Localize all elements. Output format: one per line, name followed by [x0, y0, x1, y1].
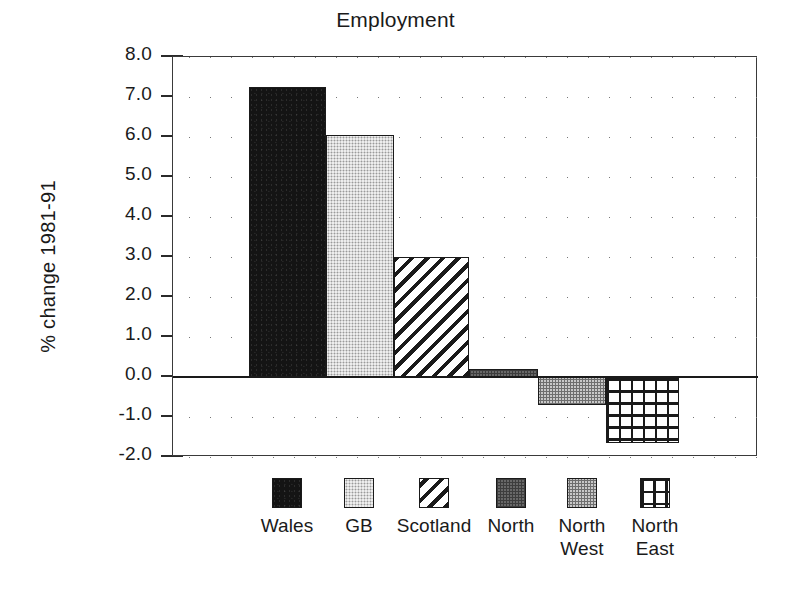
y-axis-tick: [161, 135, 172, 137]
y-axis-tick: [161, 255, 172, 257]
legend-swatch-scotland: [419, 478, 449, 508]
y-axis-tick: [161, 415, 172, 417]
y-axis-tick-label: 0.0: [90, 363, 152, 385]
legend-label: North East: [605, 514, 705, 560]
y-axis-tick-label: 1.0: [90, 323, 152, 345]
y-axis-tick: [161, 375, 172, 378]
y-axis-tick: [161, 215, 172, 217]
y-axis-tick-label: 3.0: [90, 243, 152, 265]
bar-north-west: [538, 377, 606, 405]
y-axis-title: % change 1981-91: [37, 137, 60, 397]
y-axis-tick-label: 7.0: [90, 83, 152, 105]
employment-bar-chart: Employment % change 1981-91 8.07.06.05.0…: [0, 0, 791, 599]
legend-swatch-north-east: [640, 478, 670, 508]
y-axis-tick: [161, 55, 172, 57]
zero-axis-line: [173, 376, 758, 378]
bar-north-east: [606, 377, 679, 443]
y-axis-tick: [161, 455, 172, 457]
gridline: [173, 57, 758, 58]
legend-swatch-north: [496, 478, 526, 508]
y-axis-tick-label: 6.0: [90, 123, 152, 145]
legend-swatch-north-west: [567, 478, 597, 508]
y-axis-tick-label: -1.0: [90, 403, 152, 425]
y-axis-tick: [161, 335, 172, 337]
legend-item[interactable]: North East: [605, 478, 705, 560]
chart-legend: WalesGBScotlandNorthNorth WestNorth East: [172, 478, 757, 588]
y-axis-tick: [161, 295, 172, 297]
y-axis-tick-label: 2.0: [90, 283, 152, 305]
legend-swatch-wales: [272, 478, 302, 508]
y-axis-tick-label: 4.0: [90, 203, 152, 225]
gridline: [173, 457, 758, 458]
y-axis-tick-label: 5.0: [90, 163, 152, 185]
bar-gb: [326, 135, 394, 377]
y-axis-tick-label: -2.0: [90, 443, 152, 465]
legend-swatch-gb: [344, 478, 374, 508]
bar-scotland: [394, 257, 469, 377]
y-axis-tick-label: 8.0: [90, 43, 152, 65]
plot-area: [172, 56, 757, 456]
bar-wales: [249, 87, 326, 377]
chart-title: Employment: [0, 8, 791, 32]
y-axis-tick: [161, 175, 172, 177]
y-axis-tick: [161, 95, 172, 97]
